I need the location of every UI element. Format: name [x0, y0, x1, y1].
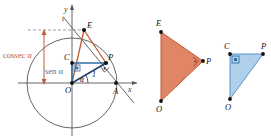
vertex-E-orange	[159, 30, 163, 34]
point-A	[114, 81, 118, 85]
vertex-P-blue	[261, 52, 265, 56]
label-vertex-E-orange: E	[155, 18, 162, 28]
x-axis-arrow	[132, 81, 137, 85]
vertex-O-blue	[228, 97, 232, 101]
vertex-C-blue	[228, 52, 232, 56]
cossec-arrow-down	[42, 79, 47, 85]
label-vertex-O-blue: O	[225, 102, 231, 112]
point-C	[70, 61, 74, 65]
y-axis-arrow	[70, 4, 74, 10]
label-point-P: P	[107, 52, 113, 62]
label-point-O: O	[65, 85, 71, 95]
radius-length-label: 1	[92, 70, 96, 79]
vertex-P-orange	[201, 59, 205, 63]
sen-label: sen α	[45, 66, 63, 76]
segment-OP-radius	[72, 63, 106, 83]
right-angle-dot-C-blue	[234, 58, 237, 61]
triangle-OCP: C P O	[224, 41, 266, 112]
angle-alpha-arc	[86, 75, 88, 83]
figure-canvas: x y t O A C P E cossec α sen α α 1 E P O	[0, 0, 271, 139]
triangle-OEP: E P O	[155, 18, 211, 114]
label-vertex-O-orange: O	[156, 104, 162, 114]
label-point-C: C	[64, 52, 70, 62]
label-vertex-C-blue: C	[224, 41, 230, 51]
unit-circle-diagram: x y t O A C P E cossec α sen α α 1	[3, 4, 137, 136]
right-angle-dot-P	[104, 67, 106, 69]
vertex-O-orange	[159, 99, 163, 103]
trigonometry-figure: x y t O A C P E cossec α sen α α 1 E P O	[0, 0, 271, 139]
tangent-line-t	[64, 18, 134, 103]
cossec-label: cossec α	[3, 50, 32, 60]
label-vertex-P-blue: P	[260, 41, 266, 51]
label-point-A: A	[112, 86, 119, 96]
y-axis-label: y	[63, 5, 68, 14]
triangle-OEP-shape	[161, 32, 203, 101]
label-vertex-P-orange: P	[205, 56, 211, 66]
point-E	[82, 28, 86, 32]
label-point-E: E	[86, 20, 93, 30]
x-axis-label: x	[127, 85, 132, 94]
right-angle-dot-P-orange	[194, 60, 196, 62]
right-angle-dot-C	[76, 67, 79, 70]
